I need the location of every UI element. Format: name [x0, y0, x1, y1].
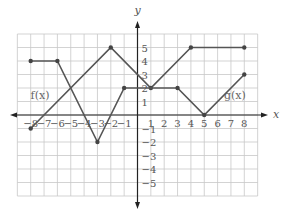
x-tick-label: −1: [117, 118, 132, 129]
data-point: [95, 140, 99, 144]
x-axis-label: x: [273, 108, 280, 121]
x-tick-label: 4: [188, 118, 194, 129]
data-point: [242, 45, 246, 49]
data-point: [55, 59, 59, 63]
x-tick-label: 7: [228, 118, 234, 129]
y-tick-label: −3: [142, 151, 157, 162]
x-tick-label: 3: [174, 118, 180, 129]
y-tick-label: −1: [142, 124, 157, 135]
function-label: g(x): [224, 89, 246, 102]
x-tick-label: 2: [161, 118, 167, 129]
y-tick-label: 1: [142, 97, 148, 108]
x-axis-left-arrow-icon: [10, 113, 17, 118]
x-axis-right-arrow-icon: [261, 113, 268, 118]
data-point: [175, 86, 179, 90]
y-tick-label: 5: [142, 43, 148, 54]
data-point: [189, 45, 193, 49]
data-point: [202, 113, 206, 117]
y-tick-label: −2: [142, 137, 157, 148]
function-graph: xy −8−7−6−5−4−3−2−112345678−5−4−3−2−1123…: [0, 0, 281, 214]
y-axis-up-arrow-icon: [135, 21, 140, 28]
y-tick-label: 4: [142, 56, 148, 67]
data-point: [109, 45, 113, 49]
x-tick-label: 8: [241, 118, 247, 129]
y-axis-label: y: [134, 4, 142, 17]
data-point: [29, 126, 33, 130]
data-point: [122, 86, 126, 90]
y-axis-down-arrow-icon: [135, 202, 140, 209]
function-label: f(x): [31, 89, 50, 102]
x-tick-label: 5: [201, 118, 207, 129]
data-point: [242, 72, 246, 76]
y-tick-label: −4: [142, 164, 157, 175]
data-point: [29, 59, 33, 63]
x-tick-label: 6: [214, 118, 220, 129]
y-tick-label: −5: [142, 178, 157, 189]
